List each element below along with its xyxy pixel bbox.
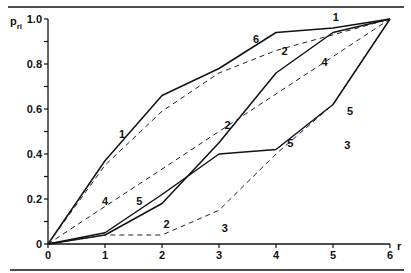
series-3-label: 3 [344, 139, 350, 151]
x-tick-label: 3 [216, 249, 222, 261]
y-tick-label: 0 [36, 238, 42, 250]
series-4-label: 4 [321, 56, 328, 68]
x-tick-label: 0 [45, 249, 51, 261]
series-4-label: 4 [102, 195, 109, 207]
axes: 012345600.20.40.60.81.0 [27, 13, 393, 261]
y-tick-label: 0.8 [27, 58, 42, 70]
x-tick-label: 4 [273, 249, 280, 261]
series-5-line [48, 19, 390, 244]
series-5-label: 5 [347, 105, 353, 117]
series-3-label: 3 [222, 222, 228, 234]
y-tick-label: 0.6 [27, 103, 42, 115]
y-tick-label: 1.0 [27, 13, 42, 25]
series-1-line [48, 19, 390, 244]
series-1-label: 1 [119, 128, 125, 140]
y-tick-label: 0.2 [27, 193, 42, 205]
chart: 012345600.20.40.60.81.0 1122233445556 pr… [0, 0, 411, 273]
series-4-line [48, 19, 390, 244]
series-2-label: 2 [163, 218, 169, 230]
x-tick-label: 1 [102, 249, 108, 261]
x-tick-label: 6 [387, 249, 393, 261]
x-axis-label: r [397, 240, 402, 252]
x-tick-label: 5 [330, 249, 336, 261]
series-5-label: 5 [287, 137, 293, 149]
y-axis-label: pri [10, 15, 22, 31]
series-3-line [48, 19, 390, 244]
series-1-label: 1 [333, 11, 339, 23]
series-6-label: 6 [253, 33, 259, 45]
series-6-line [48, 19, 390, 244]
series-2-label: 2 [224, 119, 230, 131]
series-2-line [48, 19, 390, 244]
series-layer [48, 19, 390, 244]
x-tick-label: 2 [159, 249, 165, 261]
series-2-label: 2 [281, 45, 287, 57]
y-tick-label: 0.4 [27, 148, 43, 160]
series-5-label: 5 [136, 195, 142, 207]
